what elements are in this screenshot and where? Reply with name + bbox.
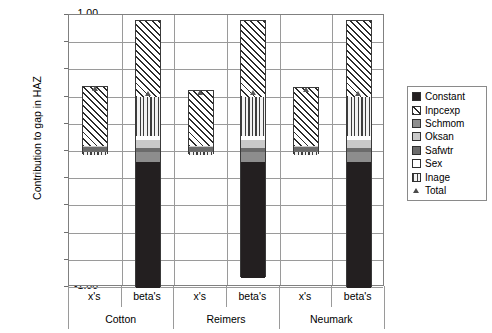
legend-label: Total	[425, 185, 446, 196]
legend-label: Inpcexp	[425, 105, 460, 116]
bar-segment-oksan	[189, 146, 213, 147]
bar-segment-inpcexp	[294, 88, 318, 146]
gridline	[69, 260, 383, 261]
bar-segment-oksan	[347, 140, 371, 147]
x-axis-subcategory-label: x's	[68, 286, 121, 307]
bar-segment-inage	[83, 152, 107, 155]
total-marker	[92, 86, 98, 91]
triangle-marker-icon	[412, 186, 421, 195]
x-axis-subcategory-label: x's	[173, 286, 226, 307]
legend-label: Safwtr	[425, 145, 453, 156]
x-axis-subcategory-label: beta's	[226, 286, 279, 307]
x-axis-divider	[226, 286, 227, 307]
gridline	[69, 178, 383, 179]
bar-segment-inage	[136, 97, 160, 136]
legend-label: Schmom	[425, 118, 464, 129]
bar-segment-inage	[294, 152, 318, 155]
x-axis-divider	[384, 286, 385, 329]
legend-item[interactable]: Total	[412, 184, 483, 197]
gridline	[69, 205, 383, 206]
category-separator	[174, 15, 175, 285]
bar-segment-sex	[136, 136, 160, 140]
x-axis-divider	[68, 286, 69, 329]
legend-item[interactable]: Inpcexp	[412, 103, 483, 116]
stacked-bar	[135, 20, 161, 287]
x-axis-divider	[173, 286, 174, 329]
legend-label: Sex	[425, 158, 442, 169]
total-marker	[303, 87, 309, 92]
bar-segment-sex	[241, 136, 265, 140]
category-separator	[122, 15, 123, 285]
legend-swatch-sex	[412, 159, 421, 168]
bar-segment-oksan	[294, 146, 318, 147]
x-axis-subcategory-label: x's	[279, 286, 332, 307]
legend-swatch-safwtr	[412, 146, 421, 155]
bar-segment-oksan	[136, 140, 160, 147]
gridline	[69, 233, 383, 234]
bar-segment-constant	[136, 162, 160, 288]
bar-segment-oksan	[83, 146, 107, 147]
x-axis-subcategory-label: beta's	[121, 286, 174, 307]
total-marker	[145, 91, 151, 96]
stacked-bar	[293, 87, 319, 154]
plot-area	[68, 14, 384, 286]
chart-legend: ConstantInpcexpSchmomOksanSafwtrSexInage…	[407, 86, 487, 201]
bar-segment-inpcexp	[189, 91, 213, 146]
bar-segment-inage	[241, 97, 265, 136]
legend-swatch-schmom	[412, 119, 421, 128]
bar-segment-schmom	[347, 152, 371, 162]
bar-segment-inpcexp	[241, 21, 265, 97]
stacked-bar	[82, 86, 108, 154]
bar-segment-inage	[347, 97, 371, 136]
legend-swatch-constant	[412, 92, 421, 101]
stacked-bar	[346, 20, 372, 287]
total-marker	[355, 91, 361, 96]
bar-segment-schmom	[136, 152, 160, 162]
x-axis-divider	[279, 286, 280, 329]
legend-label: Constant	[425, 91, 465, 102]
x-axis-subcategory-label: beta's	[331, 286, 384, 307]
legend-item[interactable]: Inage	[412, 170, 483, 183]
total-marker	[250, 90, 256, 95]
bar-segment-inpcexp	[83, 87, 107, 145]
x-axis-group-label: Neumark	[279, 307, 384, 329]
x-axis-divider	[121, 286, 122, 307]
bar-segment-constant	[241, 162, 265, 278]
bar-segment-inage	[189, 152, 213, 155]
stacked-bar	[240, 20, 266, 277]
y-axis-title: Contribution to gap in HAZ	[31, 38, 45, 238]
gridline	[69, 97, 383, 98]
legend-swatch-oksan	[412, 132, 421, 141]
bar-segment-constant	[347, 162, 371, 288]
bar-segment-oksan	[241, 140, 265, 147]
x-axis-labels: x'sbeta'sx'sbeta'sx'sbeta'sCottonReimers…	[68, 286, 384, 330]
category-separator	[227, 15, 228, 285]
legend-label: Inage	[425, 172, 450, 183]
legend-label: Oksan	[425, 131, 454, 142]
bar-segment-schmom	[241, 152, 265, 162]
legend-item[interactable]: Safwtr	[412, 144, 483, 157]
x-axis-group-label: Cotton	[68, 307, 173, 329]
legend-item[interactable]: Oksan	[412, 130, 483, 143]
total-marker	[197, 90, 203, 95]
legend-item[interactable]: Sex	[412, 157, 483, 170]
x-axis-divider	[331, 286, 332, 307]
bar-segment-inpcexp	[347, 21, 371, 97]
legend-swatch-inpcexp	[412, 106, 421, 115]
chart-container: Contribution to gap in HAZ 1.000.800.600…	[0, 0, 492, 333]
gridline	[69, 124, 383, 125]
gridline	[69, 42, 383, 43]
stacked-bar	[188, 90, 214, 155]
gridline	[69, 151, 383, 152]
legend-item[interactable]: Schmom	[412, 117, 483, 130]
bar-segment-inpcexp	[136, 21, 160, 96]
gridline	[69, 69, 383, 70]
legend-swatch-inage	[412, 173, 421, 182]
category-separator	[280, 15, 281, 285]
bar-segment-sex	[347, 136, 371, 140]
category-separator	[332, 15, 333, 285]
legend-item[interactable]: Constant	[412, 90, 483, 103]
x-axis-group-label: Reimers	[173, 307, 278, 329]
